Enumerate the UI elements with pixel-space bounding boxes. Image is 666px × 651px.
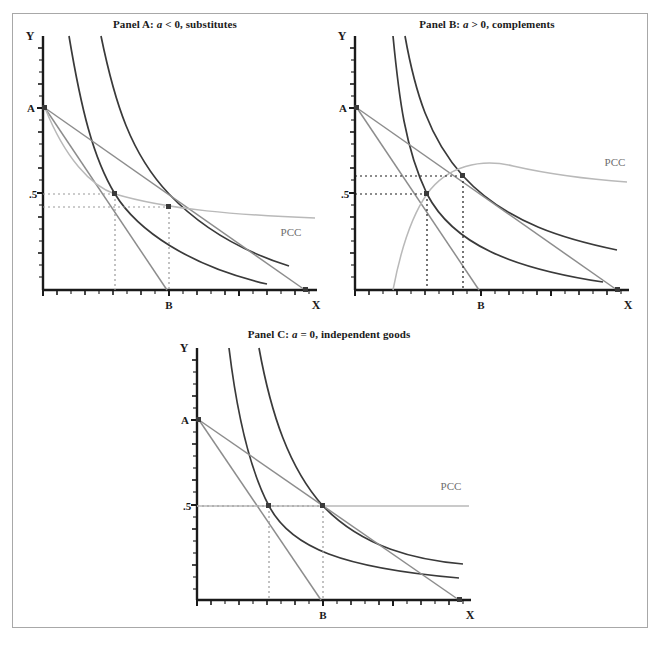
panel-b-x-point-label: B [477,299,485,311]
panel-c-indifference-curve-1 [229,348,459,578]
panel-c-plot: Y X A .5 B PCC [173,328,485,628]
panel-a-y-tick-label: .5 [29,188,38,200]
panel-a-tangency-point-2 [166,204,171,209]
panel-a-guide-lines [43,194,169,290]
panel-a-price-consumption-curve [45,108,315,218]
panel-b-price-consumption-curve [393,163,627,290]
figure-frame: Panel A: a < 0, substitutes [12,13,648,628]
panel-c-x-axis-label: X [466,608,475,622]
panel-a-intercept-label: A [27,102,35,114]
panel-b-budget-line-1 [357,108,479,290]
panel-a-tangency-point-1 [112,191,117,196]
panel-c-y-tick-label: .5 [183,500,192,512]
panel-a-budget-line-1 [45,108,167,290]
panel-c-y-axis-label: Y [180,341,189,355]
panel-b-budget-line-2 [357,108,617,290]
panel-c-tangency-point-2 [320,503,325,508]
panel-b: Panel B: a > 0, complements [331,18,643,328]
panel-b-y-axis-label: Y [338,29,347,43]
panel-a-pcc-label: PCC [281,226,302,238]
panel-c-x-point-label: B [319,609,327,621]
panel-b-indifference-curve-2 [405,36,617,250]
panel-a-budget-line-2 [45,108,305,290]
panel-a-intercept-point [42,105,47,110]
panel-c-budget-line-1 [199,420,321,600]
panel-c-budget-line-2 [199,420,459,600]
panel-c-pcc-label: PCC [441,480,462,492]
panel-a-indifference-curve-2 [101,36,289,266]
panel-a-x-point-label: B [165,299,173,311]
panel-b-intercept-point [354,105,359,110]
panel-b-plot: Y X A .5 B PCC [331,18,643,328]
panel-b-intercept-label: A [339,102,347,114]
panel-b-guide-lines [355,176,463,290]
panel-c: Panel C: a = 0, independent goods [173,328,485,628]
panel-b-x-intercept-point [615,287,620,292]
panel-c-intercept-label: A [181,414,189,426]
panel-a-indifference-curve-1 [69,36,267,284]
panel-c-x-intercept-point [457,597,462,602]
panel-a-y-axis-label: Y [26,29,35,43]
panel-b-pcc-label: PCC [605,156,626,168]
panel-c-intercept-point [196,417,201,422]
panel-b-x-axis-label: X [624,298,633,312]
panel-b-indifference-curve-1 [393,36,603,282]
panel-b-y-tick-label: .5 [341,188,350,200]
panel-a-x-intercept-point [303,287,308,292]
panel-a: Panel A: a < 0, substitutes [19,18,331,328]
panel-b-tangency-point-1 [424,191,429,196]
panel-b-tangency-point-2 [460,173,465,178]
panel-c-guide-lines [197,506,323,600]
panel-a-plot: Y X A .5 B PCC [19,18,331,328]
panel-a-x-axis-label: X [312,298,321,312]
panel-c-tangency-point-1 [266,503,271,508]
